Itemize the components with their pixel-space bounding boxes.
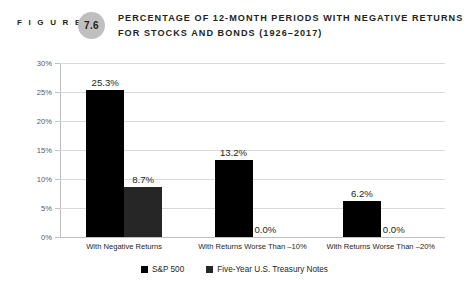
x-axis-category-labels: With Negative ReturnsWith Returns Worse … <box>60 242 445 256</box>
figure-number-badge: 7.6 <box>78 12 105 39</box>
plot-area: 25.3%8.7%13.2%0.0%6.2%0.0% <box>60 63 445 237</box>
bar-data-label: 0.0% <box>383 224 405 235</box>
chart-legend: S&P 500Five-Year U.S. Treasury Notes <box>0 265 469 274</box>
page-title: PERCENTAGE OF 12-MONTH PERIODS WITH NEGA… <box>118 11 463 41</box>
legend-label: Five-Year U.S. Treasury Notes <box>217 265 328 274</box>
figure-header: F I G U R E 7.6 PERCENTAGE OF 12-MONTH P… <box>0 0 469 52</box>
bar-data-label: 8.7% <box>132 174 154 185</box>
bar-data-label: 25.3% <box>92 77 119 88</box>
y-axis-tick-labels: 0%5%10%15%20%25%30% <box>0 63 52 237</box>
y-axis-tick-label: 20% <box>0 117 52 126</box>
bar[interactable] <box>343 201 381 237</box>
bar-data-label: 13.2% <box>220 147 247 158</box>
figure-number-label: 7.6 <box>84 20 99 31</box>
y-axis-tick-mark <box>55 150 60 151</box>
bar-data-label: 6.2% <box>351 188 373 199</box>
figure-word-label: F I G U R E <box>17 18 83 27</box>
bar[interactable] <box>124 187 162 237</box>
gridline <box>60 237 445 238</box>
y-axis-tick-label: 30% <box>0 59 52 68</box>
y-axis-tick-label: 25% <box>0 88 52 97</box>
bar-group: 25.3%8.7% <box>86 63 162 237</box>
legend-item[interactable]: S&P 500 <box>141 265 184 274</box>
bar[interactable] <box>215 160 253 237</box>
bar[interactable] <box>86 90 124 237</box>
y-axis-tick-mark <box>55 237 60 238</box>
y-axis-tick-label: 10% <box>0 175 52 184</box>
bar-group: 6.2%0.0% <box>343 63 419 237</box>
bar-group: 13.2%0.0% <box>215 63 291 237</box>
y-axis-tick-mark <box>55 121 60 122</box>
y-axis-tick-mark <box>55 92 60 93</box>
y-axis-tick-mark <box>55 208 60 209</box>
y-axis-tick-label: 5% <box>0 204 52 213</box>
x-axis-category-label: With Returns Worse Than –20% <box>317 242 445 251</box>
page-title-line-2: FOR STOCKS AND BONDS (1926–2017) <box>118 26 463 41</box>
x-axis-category-label: With Negative Returns <box>60 242 188 251</box>
y-axis-tick-label: 15% <box>0 146 52 155</box>
legend-swatch-icon <box>206 266 213 273</box>
x-axis-category-label: With Returns Worse Than –10% <box>188 242 316 251</box>
legend-item[interactable]: Five-Year U.S. Treasury Notes <box>206 265 328 274</box>
page-title-line-1: PERCENTAGE OF 12-MONTH PERIODS WITH NEGA… <box>118 11 463 26</box>
legend-swatch-icon <box>141 266 148 273</box>
y-axis-tick-label: 0% <box>0 233 52 242</box>
bar-data-label: 0.0% <box>255 224 277 235</box>
y-axis-tick-mark <box>55 179 60 180</box>
y-axis-tick-mark <box>55 63 60 64</box>
bar-chart: 0%5%10%15%20%25%30% 25.3%8.7%13.2%0.0%6.… <box>0 52 469 252</box>
legend-label: S&P 500 <box>152 265 184 274</box>
